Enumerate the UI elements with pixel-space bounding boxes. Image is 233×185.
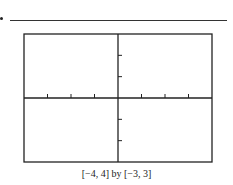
graph-window <box>0 0 233 185</box>
axes <box>24 34 212 162</box>
window-caption: [−4, 4] by [−3, 3] <box>0 168 233 179</box>
